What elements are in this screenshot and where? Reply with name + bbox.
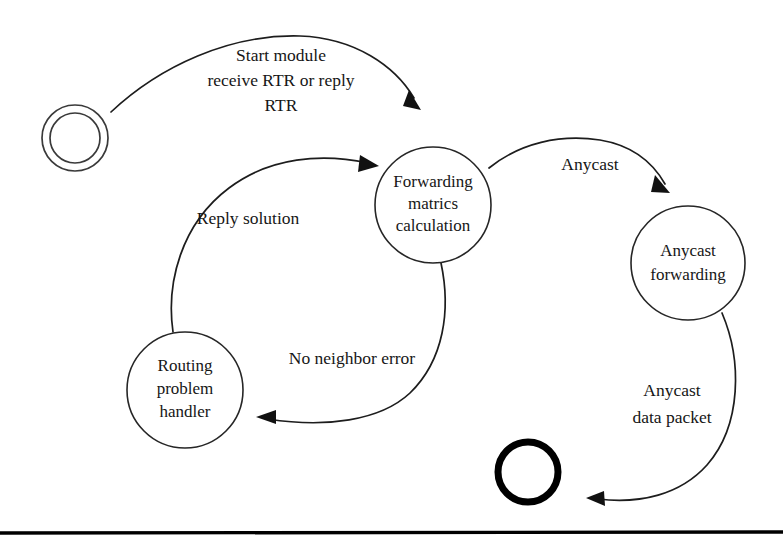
forwarding-matrics-calculation-label-line1: Forwarding bbox=[393, 172, 473, 191]
edge-label-start-to-forwarding-line2: receive RTR or reply bbox=[207, 70, 354, 90]
edge-label-start-to-forwarding-line1: Start module bbox=[236, 45, 326, 65]
arrowhead-forwarding-to-routing bbox=[256, 410, 276, 424]
node-forwarding-matrics-calculation[interactable]: Forwarding matrics calculation bbox=[375, 147, 491, 263]
diagram-canvas: Start module receive RTR or reply RTR An… bbox=[0, 0, 783, 547]
arrowhead-start-to-forwarding bbox=[403, 90, 421, 110]
edge-forwarding-to-anycast: Anycast bbox=[489, 138, 670, 193]
start-state-outer-ring bbox=[42, 105, 108, 171]
edge-label-forwarding-to-anycast: Anycast bbox=[561, 154, 618, 174]
forwarding-matrics-calculation-label-line2: matrics bbox=[408, 194, 458, 213]
routing-problem-handler-label-line1: Routing bbox=[158, 356, 213, 375]
end-state-circle bbox=[498, 442, 558, 502]
edge-anycast-to-end: Anycast data packet bbox=[586, 313, 736, 506]
node-anycast-forwarding[interactable]: Anycast forwarding bbox=[631, 206, 745, 320]
node-start-state[interactable] bbox=[42, 105, 108, 171]
start-state-inner-ring bbox=[50, 113, 100, 163]
edge-routing-to-forwarding: Reply solution bbox=[171, 155, 379, 332]
forwarding-matrics-calculation-label-line3: calculation bbox=[396, 216, 471, 235]
edge-routing-to-forwarding-path bbox=[171, 158, 368, 332]
node-routing-problem-handler[interactable]: Routing problem handler bbox=[127, 332, 243, 448]
anycast-forwarding-label-line1: Anycast bbox=[660, 241, 716, 260]
arrowhead-anycast-to-end bbox=[586, 491, 605, 506]
edge-label-routing-to-forwarding: Reply solution bbox=[197, 208, 300, 228]
edge-start-to-forwarding: Start module receive RTR or reply RTR bbox=[111, 36, 421, 115]
anycast-forwarding-circle bbox=[631, 206, 745, 320]
edge-label-start-to-forwarding-line3: RTR bbox=[265, 95, 298, 115]
bottom-divider bbox=[0, 532, 783, 533]
anycast-forwarding-label-line2: forwarding bbox=[650, 265, 726, 284]
node-end-state[interactable] bbox=[498, 442, 558, 502]
edge-label-forwarding-to-routing: No neighbor error bbox=[289, 348, 416, 368]
edge-label-anycast-to-end-line1: Anycast bbox=[643, 380, 700, 400]
routing-problem-handler-label-line3: handler bbox=[160, 402, 211, 421]
edge-label-anycast-to-end-line2: data packet bbox=[632, 407, 711, 427]
routing-problem-handler-label-line2: problem bbox=[157, 379, 214, 398]
edge-forwarding-to-routing: No neighbor error bbox=[256, 263, 445, 424]
state-diagram: Start module receive RTR or reply RTR An… bbox=[0, 0, 783, 547]
edge-forwarding-to-routing-path bbox=[268, 263, 445, 423]
arrowhead-routing-to-forwarding bbox=[358, 155, 379, 172]
